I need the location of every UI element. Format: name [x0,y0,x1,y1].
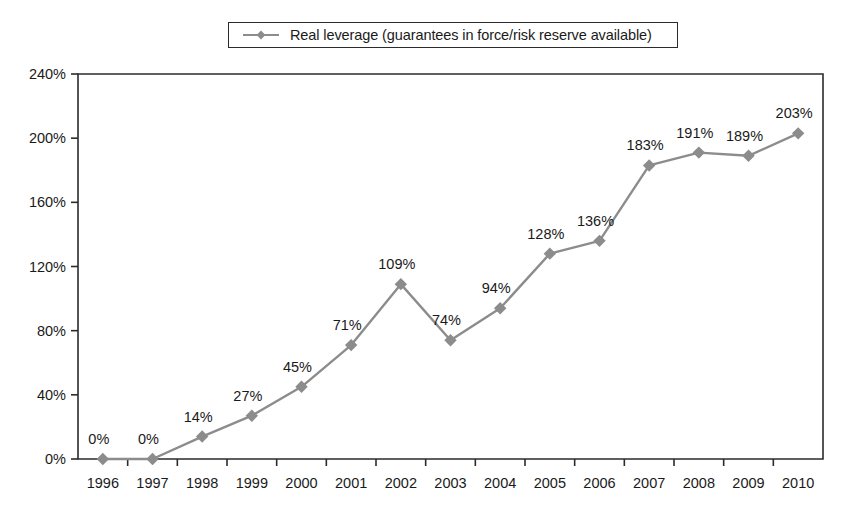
data-point-label: 0% [88,431,109,447]
data-point-marker [196,430,208,442]
data-point-label: 45% [283,359,312,375]
x-axis-tick-label: 1999 [236,475,268,491]
x-axis-tick-label: 2008 [683,475,715,491]
y-axis-tick-label: 160% [29,194,66,210]
data-point-label: 74% [432,312,461,328]
data-point-labels: 0%0%14%27%45%71%109%74%94%128%136%183%19… [88,105,812,447]
x-axis-tick-label: 2004 [484,475,516,491]
data-point-marker [97,453,109,465]
x-axis-tick-label: 2006 [583,475,615,491]
data-point-marker [693,146,705,158]
x-axis-tick-label: 2003 [434,475,466,491]
data-point-label: 27% [233,388,262,404]
data-point-label: 109% [378,256,415,272]
y-axis-tick-label: 40% [37,387,66,403]
data-point-marker [742,150,754,162]
y-axis-ticks: 0%40%80%120%160%200%240% [29,66,78,467]
data-point-label: 203% [776,105,813,121]
x-axis-ticks: 1996199719981999200020012002200320042005… [87,459,815,491]
data-point-label: 71% [333,317,362,333]
data-point-marker [643,159,655,171]
x-axis-tick-label: 2000 [285,475,317,491]
data-point-label: 94% [482,280,511,296]
data-point-label: 183% [627,137,664,153]
y-axis-tick-label: 240% [29,66,66,82]
data-point-marker [246,409,258,421]
x-axis-tick-label: 1997 [136,475,168,491]
data-point-marker [146,453,158,465]
x-axis-tick-label: 1998 [186,475,218,491]
x-axis-tick-label: 2009 [732,475,764,491]
y-axis-tick-label: 120% [29,259,66,275]
x-axis-tick-label: 2010 [782,475,814,491]
data-point-label: 191% [676,125,713,141]
x-axis-tick-label: 2002 [385,475,417,491]
y-axis-tick-label: 80% [37,323,66,339]
x-axis-tick-label: 2001 [335,475,367,491]
x-axis-tick-label: 2007 [633,475,665,491]
data-point-label: 14% [184,409,213,425]
data-point-marker [792,127,804,139]
y-axis-tick-label: 200% [29,130,66,146]
chart-container: Real leverage (guarantees in force/risk … [0,0,845,521]
x-axis-tick-label: 1996 [87,475,119,491]
chart-plot-area: 0%40%80%120%160%200%240% 199619971998199… [0,0,845,521]
data-point-label: 0% [138,431,159,447]
data-point-label: 128% [527,226,564,242]
data-point-marker [593,235,605,247]
data-point-label: 189% [726,128,763,144]
y-axis-tick-label: 0% [45,451,66,467]
data-point-label: 136% [577,213,614,229]
x-axis-tick-label: 2005 [534,475,566,491]
